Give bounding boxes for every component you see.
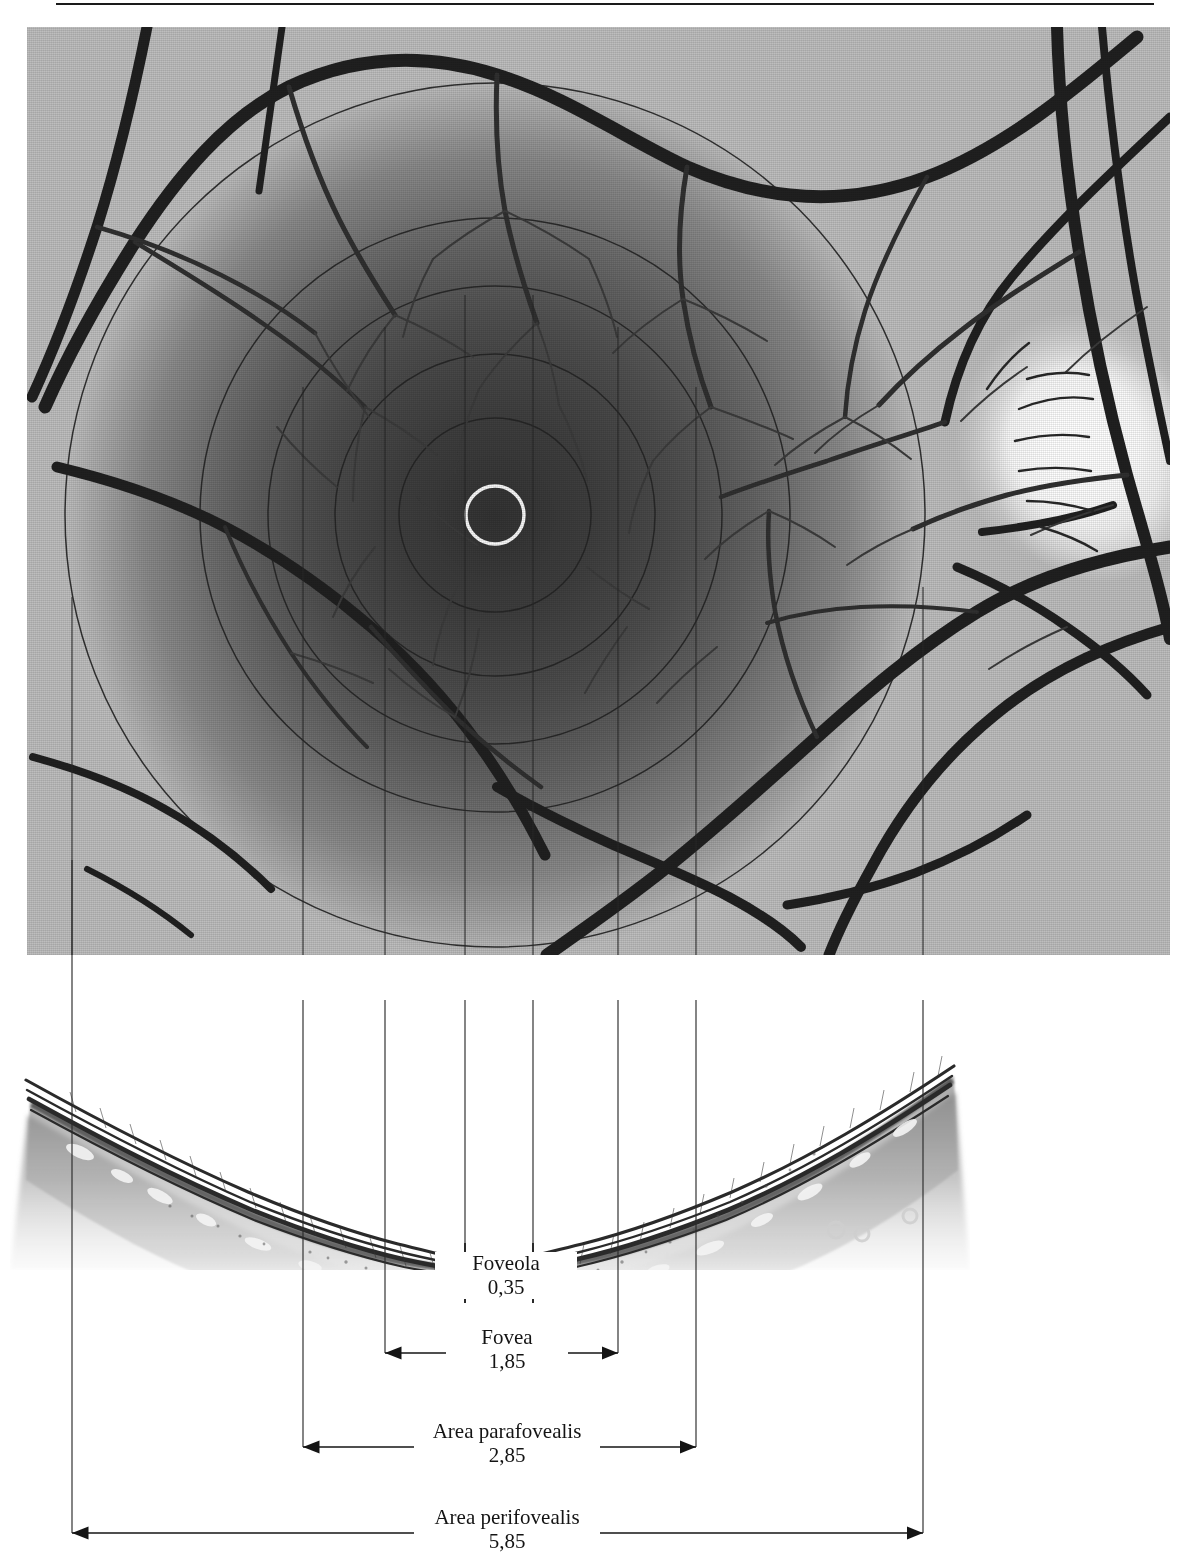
macula-shading bbox=[195, 207, 795, 827]
label-area-parafovealis-name: Area parafovealis bbox=[433, 1419, 582, 1443]
histology-cross-section bbox=[10, 1020, 970, 1270]
label-area-perifovealis-name: Area perifovealis bbox=[434, 1505, 579, 1529]
label-area-perifovealis-value: 5,85 bbox=[421, 1530, 593, 1554]
label-foveola-name: Foveola bbox=[472, 1251, 540, 1275]
label-foveola: Foveola 0,35 bbox=[435, 1252, 577, 1299]
label-area-parafovealis: Area parafovealis 2,85 bbox=[414, 1420, 600, 1467]
top-rule-divider bbox=[56, 3, 1154, 5]
label-fovea-name: Fovea bbox=[481, 1325, 532, 1349]
label-fovea: Fovea 1,85 bbox=[446, 1326, 568, 1373]
figure-page: Foveola 0,35 Fovea 1,85 Area parafoveali… bbox=[0, 0, 1193, 1567]
label-area-perifovealis: Area perifovealis 5,85 bbox=[414, 1506, 600, 1553]
foveal-pit-section bbox=[10, 1020, 970, 1270]
fundus-vessel-overlay bbox=[27, 27, 1170, 955]
label-foveola-value: 0,35 bbox=[442, 1276, 570, 1300]
fundus-photograph bbox=[27, 27, 1170, 955]
label-area-parafovealis-value: 2,85 bbox=[421, 1444, 593, 1468]
label-fovea-value: 1,85 bbox=[453, 1350, 561, 1374]
